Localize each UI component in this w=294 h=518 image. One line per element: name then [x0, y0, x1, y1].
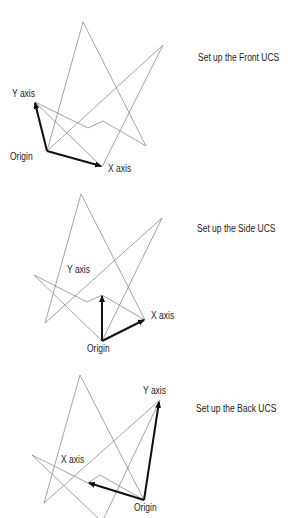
y-axis-arrow: [144, 402, 159, 500]
back-y-axis-label: Y axis: [143, 386, 166, 396]
side-ucs-axes: [102, 296, 144, 341]
front-ucs-caption: Set up the Front UCS: [198, 53, 279, 63]
side-origin-label: Origin: [87, 344, 110, 354]
side-ucs-caption: Set up the Side UCS: [197, 224, 275, 234]
back-ucs-caption: Set up the Back UCS: [196, 404, 276, 414]
back-ucs-wireframe: [32, 375, 160, 518]
back-origin-label: Origin: [134, 503, 157, 513]
front-origin-label: Origin: [10, 152, 33, 162]
y-axis-arrow: [35, 103, 47, 151]
back-ucs-axes: [89, 402, 159, 500]
front-ucs-wireframe: [35, 22, 163, 167]
side-y-axis-label: Y axis: [67, 265, 90, 275]
back-x-axis-label: X axis: [61, 455, 84, 465]
side-x-axis-label: X axis: [151, 311, 174, 321]
x-axis-arrow: [89, 483, 144, 500]
front-y-axis-label: Y axis: [12, 89, 35, 99]
ucs-diagram-canvas: [0, 0, 294, 518]
front-x-axis-label: X axis: [108, 164, 131, 174]
side-ucs-wireframe: [34, 194, 162, 341]
x-axis-arrow: [102, 320, 144, 341]
